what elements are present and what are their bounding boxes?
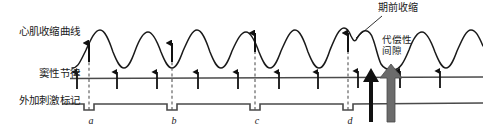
- myocardial-refractory-period-diagram: 心肌收缩曲线 窦性节律 外加刺激标记 期前收缩 代偿性 间隙 a b c d: [0, 0, 483, 132]
- diagram-canvas: [0, 0, 483, 132]
- annotation-premature-contraction: 期前收缩: [378, 2, 418, 13]
- row-label-stimulus-marker: 外加刺激标记: [2, 95, 80, 107]
- stimulus-dashed-connectors: [89, 33, 348, 110]
- stimulus-response-arrows: [89, 33, 348, 62]
- premature-contraction-leader-line: [356, 16, 382, 38]
- tick-letter-b: b: [167, 115, 181, 126]
- stimulus-marker-line: [62, 103, 483, 110]
- compensatory-pause-big-arrow: [380, 64, 402, 122]
- myocardial-contraction-curve: [72, 28, 483, 70]
- row-label-myocardial-curve: 心肌收缩曲线: [6, 26, 80, 38]
- tick-letter-a: a: [84, 115, 98, 126]
- annotation-compensatory-pause-line2: 间隙: [382, 46, 402, 56]
- tick-letter-c: c: [250, 115, 264, 126]
- annotation-compensatory-pause-line1: 代偿性: [382, 35, 412, 45]
- annotation-compensatory-pause: 代偿性 间隙: [382, 35, 412, 57]
- row-label-sinus-rhythm: 窦性节律: [6, 68, 80, 80]
- tick-letter-d: d: [343, 115, 357, 126]
- sinus-rhythm-baseline: [70, 77, 483, 79]
- premature-stimulus-big-arrow: [363, 68, 379, 122]
